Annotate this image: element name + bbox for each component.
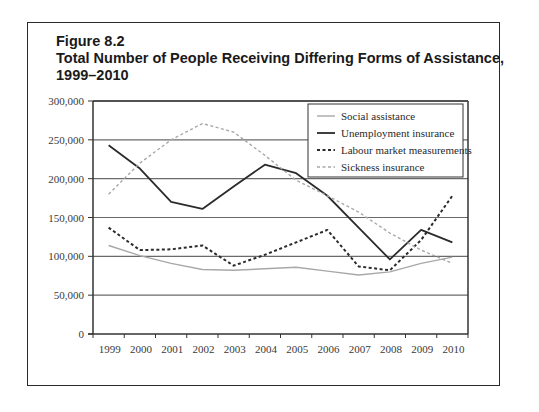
x-tick-label: 2005: [286, 343, 309, 355]
y-tick-label: 100,000: [48, 250, 84, 262]
legend: Social assistanceUnemployment insuranceL…: [308, 104, 472, 177]
y-tick-label: 250,000: [48, 134, 84, 146]
x-tick-label: 2002: [192, 343, 214, 355]
x-tick-label: 2008: [380, 343, 403, 355]
x-tick-label: 1999: [99, 343, 122, 355]
y-tick-label: 200,000: [48, 173, 84, 185]
x-tick-label: 2007: [349, 343, 372, 355]
x-tick-label: 2009: [411, 343, 434, 355]
y-tick-label: 0: [79, 328, 85, 340]
legend-label: Labour market measurements: [341, 144, 472, 156]
x-tick-label: 2004: [255, 343, 278, 355]
legend-label: Unemployment insurance: [341, 127, 454, 139]
legend-label: Sickness insurance: [341, 161, 425, 173]
legend-label: Social assistance: [341, 110, 415, 122]
series-labour-market-measurements: [109, 196, 453, 271]
x-tick-label: 2000: [130, 343, 153, 355]
y-tick-label: 50,000: [54, 289, 85, 301]
x-tick-label: 2006: [317, 343, 340, 355]
x-tick-label: 2001: [161, 343, 183, 355]
x-tick-label: 2003: [224, 343, 247, 355]
y-tick-label: 300,000: [48, 95, 84, 107]
line-chart: 050,000100,000150,000200,000250,000300,0…: [0, 0, 539, 412]
y-tick-label: 150,000: [48, 212, 84, 224]
x-tick-label: 2010: [442, 343, 465, 355]
